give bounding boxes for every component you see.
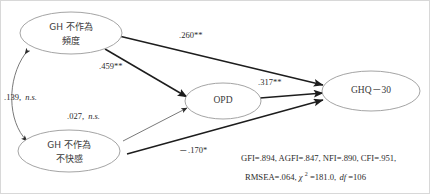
node-opd: OPD [185,83,261,119]
node-gh-displeasure-line1: GH 不作為 [47,139,91,150]
coef-label-frequency-to-ghq: .260** [179,30,202,40]
fit-df-value: =106 [348,172,366,182]
coef-covariance-ns: n.s. [25,92,37,102]
fit-indices-line2: RMSEA=.064, χ 2 =181.0, df =106 [245,171,367,182]
node-ghq30: GHQ－30 [322,71,420,111]
path-arrow-frequency-to-ghq [119,36,323,85]
coef-label-frequency-to-opd: .459** [99,61,122,71]
coef-covariance-value: .139, [4,92,21,102]
node-gh-frequency-line1: GH 不作為 [49,21,93,32]
coef-displeasure-opd-ns: n.s. [88,111,100,121]
coef-label-covariance: .139, n.s. [4,92,37,102]
fit-chi-value: =181.0, [310,172,338,182]
coef-label-opd-to-ghq: .317** [258,77,281,87]
fit-chi-symbol: χ [298,172,303,182]
node-gh-frequency-ellipse [20,12,122,54]
node-gh-displeasure-ellipse [18,130,120,172]
node-gh-frequency-line2: 頻度 [62,35,80,46]
fit-df-symbol: df [339,172,347,182]
path-arrow-displeasure-to-opd [123,108,187,141]
svg-text:.027, n.s.: .027, n.s. [67,111,100,121]
node-gh-frequency: GH 不作為 頻度 [20,12,122,54]
svg-text:.139, n.s.: .139, n.s. [4,92,37,102]
coef-displeasure-opd-value: .027, [67,111,84,121]
node-ghq30-label: GHQ－30 [351,85,391,95]
svg-text:RMSEA=.064, χ: RMSEA=.064, χ 2 =181.0, df =106 [245,171,367,182]
fit-rmsea: RMSEA=.064, [245,172,299,182]
path-arrow-opd-to-ghq [260,93,323,98]
node-opd-label: OPD [213,95,232,105]
node-gh-displeasure: GH 不作為 不快感 [18,130,120,172]
coef-label-displeasure-to-ghq: －.170* [179,145,207,155]
fit-indices-line1: GFI=.894, AGFI=.847, NFI=.890, CFI=.951, [241,153,396,163]
node-gh-displeasure-line2: 不快感 [56,153,83,164]
diagram-canvas: GH 不作為 頻度 GH 不作為 不快感 OPD GHQ－30 .260** .… [1,1,430,194]
path-arrow-frequency-to-opd [105,49,187,97]
path-diagram-figure: GH 不作為 頻度 GH 不作為 不快感 OPD GHQ－30 .260** .… [0,0,430,194]
coef-label-displeasure-to-opd: .027, n.s. [67,111,100,121]
fit-chi-superscript: 2 [305,171,308,177]
